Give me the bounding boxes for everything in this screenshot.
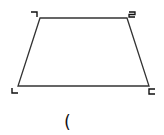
vertex-label-bottom-left [12,88,18,93]
vertex-label-top-right [129,12,135,17]
vertex-label-bottom-right [149,89,155,94]
vertex-label-top-left [31,12,37,17]
trapezoid-shape [18,18,149,86]
caption-text: ( [62,112,72,132]
diagram-canvas: ( [0,0,164,135]
